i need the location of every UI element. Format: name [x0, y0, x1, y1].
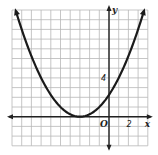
y-tick-label: 4: [101, 74, 106, 83]
x-axis-label: x: [144, 119, 151, 129]
x-tick-label: 2: [126, 120, 131, 129]
origin-label: O: [100, 119, 108, 129]
parabola-graph: x y O 2 4: [0, 0, 158, 155]
y-axis-label: y: [111, 5, 118, 15]
